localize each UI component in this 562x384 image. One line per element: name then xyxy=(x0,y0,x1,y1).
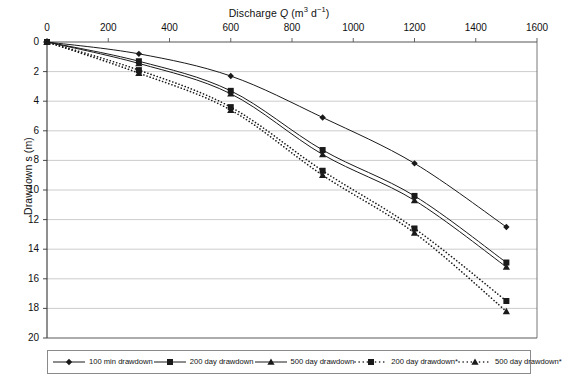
legend-entry: 200 day drawdown* xyxy=(354,357,458,367)
data-series xyxy=(43,38,510,314)
legend-label: 100 min drawdown xyxy=(89,358,153,366)
legend-symbol xyxy=(458,357,492,367)
legend-label: 500 day drawdown xyxy=(291,358,355,366)
legend-symbol xyxy=(52,357,86,367)
square-marker xyxy=(167,359,173,365)
legend-entry: 500 day drawdown xyxy=(254,357,355,367)
legend-label: 200 day drawdown* xyxy=(391,358,458,366)
series-line xyxy=(47,42,506,267)
diamond-marker xyxy=(66,359,72,365)
series-line xyxy=(47,42,506,301)
series-line xyxy=(47,42,506,311)
diamond-marker xyxy=(319,114,325,120)
series-line xyxy=(47,42,506,263)
diamond-marker xyxy=(228,73,234,79)
data-series xyxy=(43,38,510,269)
chart-legend: 100 min drawdown200 day drawdown500 day … xyxy=(47,350,531,374)
grid-lines xyxy=(47,72,537,338)
legend-label: 500 day drawdown* xyxy=(495,358,562,366)
legend-entry: 200 day drawdown xyxy=(153,357,254,367)
axis-lines xyxy=(43,38,537,338)
triangle-marker xyxy=(471,358,478,364)
diamond-marker xyxy=(411,160,417,166)
square-marker xyxy=(503,298,509,304)
data-series xyxy=(44,39,509,304)
data-series xyxy=(44,39,509,266)
legend-entry: 500 day drawdown* xyxy=(458,357,562,367)
legend-entry: 100 min drawdown xyxy=(52,357,153,367)
data-series xyxy=(44,39,510,230)
legend-symbol xyxy=(153,357,187,367)
legend-label: 200 day drawdown xyxy=(190,358,254,366)
series-line xyxy=(47,42,506,227)
data-series-group xyxy=(43,38,510,314)
diamond-marker xyxy=(503,224,509,230)
diamond-marker xyxy=(136,51,142,57)
legend-symbol xyxy=(254,357,288,367)
square-marker xyxy=(368,359,374,365)
legend-symbol xyxy=(354,357,388,367)
